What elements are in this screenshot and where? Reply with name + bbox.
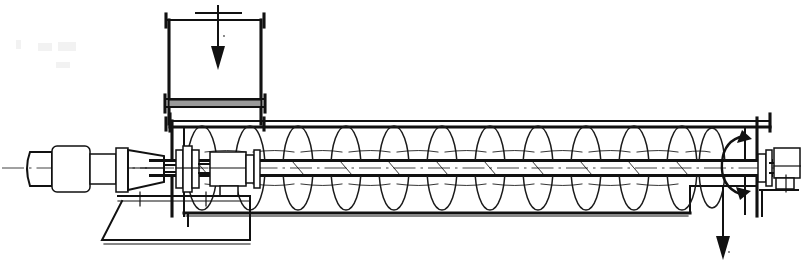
shaft-seal-gland: [246, 150, 260, 188]
drawing-background: [0, 0, 801, 264]
tail-seal-flange-a: [758, 154, 766, 182]
seal-flange-b: [254, 150, 260, 188]
scan-smudge-d: [56, 62, 70, 68]
screw-conveyor-drawing: [0, 0, 801, 264]
scan-smudge-c: [58, 42, 76, 51]
coupling-disc-3: [192, 150, 199, 188]
discharge-arrow-dot: [728, 251, 730, 253]
hopper-flange-band: [169, 100, 261, 107]
scan-smudge-b: [38, 43, 52, 51]
reducer-flange: [116, 148, 128, 192]
reducer-center-dot: [145, 167, 147, 169]
tail-seal-flange-b: [766, 150, 772, 186]
bearing-foot: [220, 186, 238, 196]
screw-conveyor-schematic: [0, 0, 801, 264]
tail-bearing-foot: [776, 178, 794, 189]
coupling-disc-2: [183, 146, 192, 192]
motor-body: [52, 146, 90, 192]
scan-smudge-a: [16, 40, 21, 49]
motor-shaft-housing: [90, 154, 116, 184]
coupling-disc-1: [176, 150, 183, 188]
seal-flange-a: [246, 155, 254, 183]
tail-bearing-housing: [774, 148, 800, 178]
bearing-housing: [210, 152, 246, 186]
inlet-arrow-dot: [223, 35, 225, 37]
